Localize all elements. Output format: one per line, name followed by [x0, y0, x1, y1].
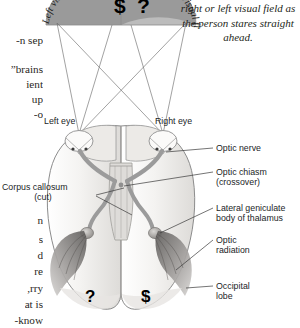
label-optic-radiation-main: Optic	[216, 235, 237, 245]
label-corpus-callosum-main: Corpus callosum	[2, 182, 68, 192]
label-optic-radiation: Optic radiation	[216, 235, 298, 256]
body-line-11: n	[37, 213, 43, 228]
label-left-eye: Left eye	[44, 116, 75, 126]
label-occipital-lobe: Occipital lobe	[216, 281, 298, 302]
label-lateral-geniculate-main: Lateral geniculate	[216, 203, 285, 213]
leader-occipital-lobe	[186, 286, 213, 288]
body-line-5: o-	[34, 107, 43, 122]
visual-field-right-symbol: ?	[137, 0, 150, 18]
right-hemisphere-symbol: $	[141, 287, 150, 307]
label-lateral-geniculate-body: Lateral geniculate body of thalamus	[216, 203, 300, 224]
figure-caption: right or left visual field as the person…	[178, 1, 298, 45]
label-optic-chiasm: Optic chiasm (crossover)	[216, 167, 298, 188]
brain-ventral-view	[47, 125, 194, 309]
label-optic-nerve: Optic nerve	[216, 143, 261, 153]
body-text-column: n sep- brains” ient up o- n s d re rry, …	[0, 0, 46, 323]
body-line-4: up	[32, 92, 43, 107]
body-line-0: n sep-	[16, 33, 43, 48]
label-optic-radiation-sub: radiation	[216, 245, 298, 255]
label-corpus-callosum: Corpus callosum (cut)	[2, 182, 98, 203]
body-line-3: ient	[26, 77, 43, 92]
label-occipital-lobe-main: Occipital	[216, 281, 250, 291]
body-line-12: s	[39, 232, 43, 247]
eyeball-left	[65, 131, 93, 152]
eyeball-right	[149, 131, 177, 152]
body-line-17: know-	[14, 313, 43, 328]
label-right-eye: Right eye	[155, 116, 192, 126]
body-line-13: d	[37, 248, 43, 263]
body-line-2: brains”	[11, 62, 43, 77]
body-line-16: at is	[25, 297, 43, 312]
label-optic-chiasm-sub: (crossover)	[216, 177, 298, 187]
body-line-14: re	[34, 264, 43, 279]
body-line-15: rry,	[27, 281, 43, 296]
label-occipital-lobe-sub: lobe	[216, 291, 298, 301]
left-hemisphere-symbol: ?	[85, 287, 95, 307]
label-lateral-geniculate-sub: body of thalamus	[216, 213, 300, 223]
label-optic-chiasm-main: Optic chiasm	[216, 167, 267, 177]
label-corpus-callosum-sub: (cut)	[2, 192, 98, 202]
visual-field-left-symbol: $	[114, 0, 126, 18]
